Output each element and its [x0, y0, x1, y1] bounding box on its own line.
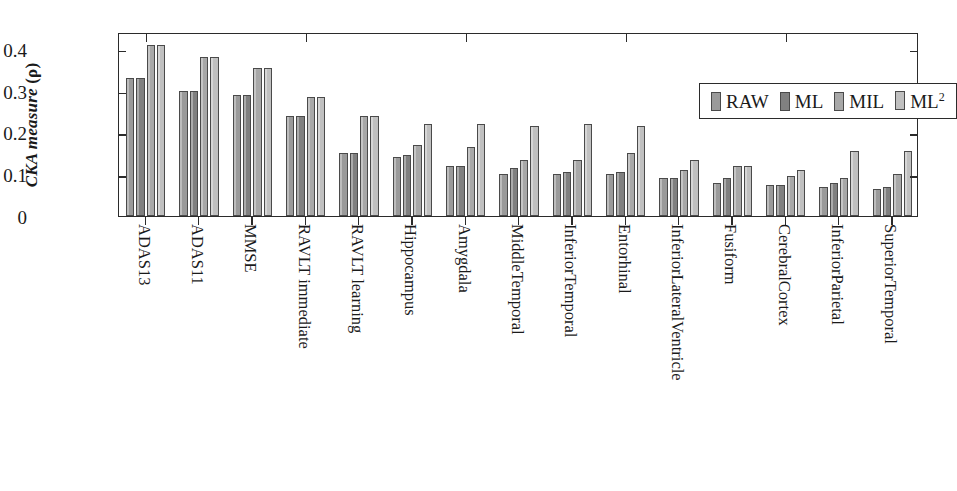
- x-axis-label: Hippocampus: [402, 224, 419, 316]
- legend-item: ML: [780, 92, 824, 111]
- x-axis-label: ADAS13: [135, 224, 152, 285]
- y-tick-label: 0.4: [0, 40, 27, 59]
- x-tickmark-top: [306, 34, 307, 42]
- bar: [190, 91, 198, 216]
- bar: [830, 183, 838, 216]
- bar: [179, 91, 187, 216]
- y-tick-label: 0: [0, 208, 27, 227]
- bar: [530, 126, 538, 216]
- legend-label: MIL: [849, 92, 884, 111]
- x-axis-label: CerebralCortex: [775, 224, 792, 326]
- bar: [744, 166, 752, 216]
- bar: [659, 178, 667, 216]
- bar: [904, 151, 912, 216]
- bar: [393, 157, 401, 216]
- legend-label-superscript: 2: [939, 90, 945, 104]
- bar: [499, 174, 507, 216]
- bar: [510, 168, 518, 216]
- x-axis-label: MMSE: [242, 224, 259, 273]
- bar: [766, 185, 774, 216]
- x-axis-label: SuperiorTemporal: [882, 224, 899, 344]
- bar: [563, 172, 571, 216]
- bar: [467, 147, 475, 216]
- x-axis-label: RAVLT immediate: [295, 224, 312, 349]
- bar: [456, 166, 464, 216]
- bar: [670, 178, 678, 216]
- bar: [627, 153, 635, 216]
- legend-item: RAW: [711, 92, 769, 111]
- x-axis-label: ADAS11: [189, 224, 206, 285]
- x-axis-label: Entorhinal: [615, 224, 632, 294]
- bar: [413, 145, 421, 216]
- bar: [850, 151, 858, 216]
- bar: [873, 189, 881, 216]
- y-tickmark: [119, 176, 126, 177]
- bar: [243, 95, 251, 216]
- bar: [690, 160, 698, 216]
- bar: [733, 166, 741, 216]
- bar: [584, 124, 592, 216]
- x-tickmark-top: [626, 34, 627, 42]
- y-tickmark-right: [910, 51, 917, 52]
- bar: [553, 174, 561, 216]
- y-tick-label: 0.1: [0, 166, 27, 185]
- bar: [126, 78, 134, 216]
- bar: [424, 124, 432, 216]
- bar: [680, 170, 688, 216]
- x-axis-label: InferiorParietal: [829, 224, 846, 325]
- bar: [403, 155, 411, 216]
- bar: [286, 116, 294, 216]
- bar: [307, 97, 315, 216]
- y-tick-label: 0.3: [0, 82, 27, 101]
- bar: [136, 78, 144, 216]
- legend-label: RAW: [726, 92, 769, 111]
- legend-label: ML: [795, 92, 824, 111]
- bar: [200, 57, 208, 216]
- bar: [296, 116, 304, 216]
- bar: [787, 176, 795, 216]
- bar: [370, 116, 378, 216]
- chart-legend: RAWMLMILML2: [699, 83, 957, 119]
- legend-item: MIL: [834, 92, 884, 111]
- legend-swatch: [711, 92, 721, 111]
- y-tickmark-right: [910, 176, 917, 177]
- bar: [477, 124, 485, 216]
- x-axis-label: MiddleTemporal: [509, 224, 526, 335]
- bar: [893, 174, 901, 216]
- plot-area: RAWMLMILML2: [118, 33, 918, 217]
- x-axis-label: InferiorLateralVentricle: [669, 224, 686, 381]
- bar: [819, 187, 827, 216]
- bar: [797, 170, 805, 216]
- y-tickmark: [119, 93, 126, 94]
- bar: [360, 116, 368, 216]
- bar: [233, 95, 241, 216]
- bar: [520, 160, 528, 216]
- bar: [840, 178, 848, 216]
- legend-label: ML2: [910, 91, 945, 111]
- bar: [573, 160, 581, 216]
- bar: [350, 153, 358, 216]
- bar: [446, 166, 454, 216]
- bar: [713, 183, 721, 216]
- x-tickmark-top: [146, 34, 147, 42]
- bar: [210, 57, 218, 216]
- legend-swatch: [834, 92, 844, 111]
- legend-item: ML2: [895, 91, 945, 111]
- bar: [253, 68, 261, 216]
- bar: [147, 45, 155, 216]
- bar: [723, 178, 731, 216]
- y-tick-label: 0.2: [0, 124, 27, 143]
- y-tickmark-right: [910, 134, 917, 135]
- bar: [264, 68, 272, 216]
- bar: [606, 174, 614, 216]
- y-tickmark: [119, 134, 126, 135]
- bar: [616, 172, 624, 216]
- bar: [157, 45, 165, 216]
- x-tickmark-top: [786, 34, 787, 42]
- bar: [776, 185, 784, 216]
- x-axis-label: RAVLT learning: [349, 224, 366, 333]
- bar: [637, 126, 645, 216]
- y-tickmark: [119, 51, 126, 52]
- legend-swatch: [895, 91, 905, 110]
